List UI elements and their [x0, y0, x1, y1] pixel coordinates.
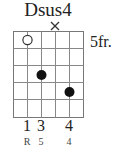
fretboard-grid — [14, 32, 84, 118]
finger-number: 1 — [20, 118, 34, 134]
finger-number: 3 — [34, 118, 48, 134]
finger-dot — [65, 87, 75, 97]
interval-label: R — [20, 137, 34, 147]
finger-number: 4 — [62, 118, 76, 134]
open-circle-marker — [23, 35, 32, 44]
finger-dot — [37, 70, 47, 80]
interval-label: 5 — [34, 137, 48, 147]
start-fret-label: 5fr. — [90, 34, 112, 50]
interval-label: 4 — [62, 137, 76, 147]
muted-x-icon — [51, 22, 59, 30]
chord-diagram — [0, 0, 117, 163]
